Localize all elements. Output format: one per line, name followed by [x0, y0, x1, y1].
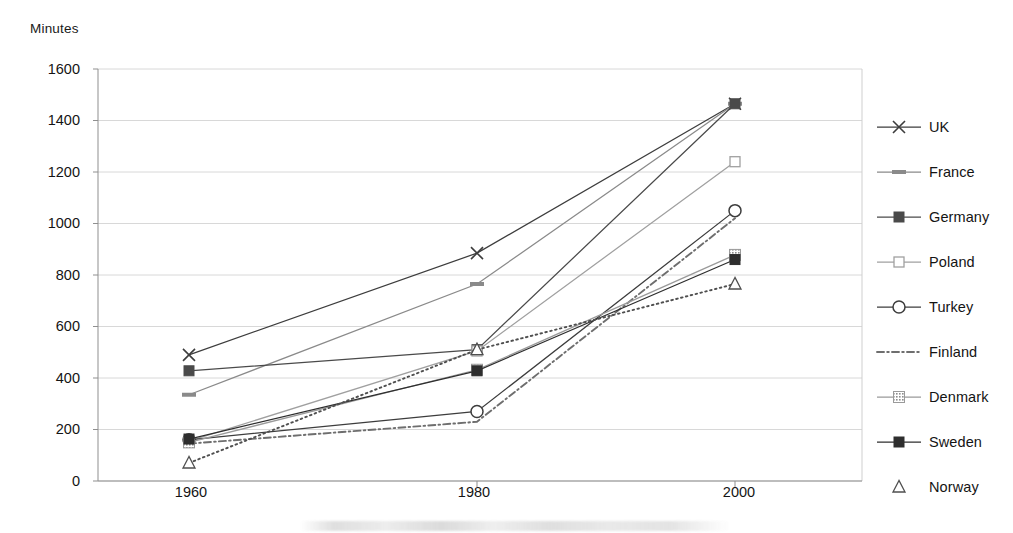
- legend-key-turkey: [875, 297, 923, 317]
- series-denmark: [184, 249, 741, 447]
- series-uk: [183, 98, 741, 361]
- legend-item-denmark[interactable]: Denmark: [875, 374, 1013, 419]
- legend-item-sweden[interactable]: Sweden: [875, 419, 1013, 464]
- legend-item-poland[interactable]: Poland: [875, 239, 1013, 284]
- series-finland: [189, 218, 735, 443]
- page-edge-artifact: [300, 521, 730, 531]
- chart-legend: UK France Germany Poland Turkey Finland …: [875, 104, 1013, 509]
- legend-label-turkey: Turkey: [929, 299, 973, 315]
- legend-label-finland: Finland: [929, 344, 977, 360]
- legend-label-poland: Poland: [929, 254, 975, 270]
- legend-key-denmark: [875, 387, 923, 407]
- legend-key-poland: [875, 252, 923, 272]
- series-turkey: [183, 205, 741, 446]
- legend-label-germany: Germany: [929, 209, 989, 225]
- legend-item-finland[interactable]: Finland: [875, 329, 1013, 374]
- legend-label-sweden: Sweden: [929, 434, 982, 450]
- legend-item-turkey[interactable]: Turkey: [875, 284, 1013, 329]
- legend-key-sweden: [875, 432, 923, 452]
- series-norway: [183, 278, 741, 468]
- legend-key-norway: [875, 477, 923, 497]
- legend-key-uk: [875, 117, 923, 137]
- line-chart: Minutes 1600 1400 1200 1000 800 600 400 …: [0, 0, 1013, 533]
- plot-area: [0, 0, 1013, 533]
- legend-item-uk[interactable]: UK: [875, 104, 1013, 149]
- legend-item-france[interactable]: France: [875, 149, 1013, 194]
- series-germany: [184, 99, 740, 376]
- legend-key-germany: [875, 207, 923, 227]
- series-poland: [184, 157, 740, 446]
- legend-label-france: France: [929, 164, 975, 180]
- legend-item-norway[interactable]: Norway: [875, 464, 1013, 509]
- legend-item-germany[interactable]: Germany: [875, 194, 1013, 239]
- series-sweden: [184, 255, 740, 444]
- legend-label-norway: Norway: [929, 479, 979, 495]
- legend-label-uk: UK: [929, 119, 949, 135]
- legend-key-finland: [875, 342, 923, 362]
- legend-label-denmark: Denmark: [929, 389, 989, 405]
- legend-key-france: [875, 162, 923, 182]
